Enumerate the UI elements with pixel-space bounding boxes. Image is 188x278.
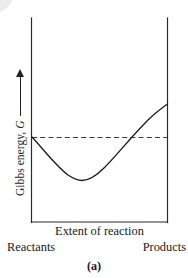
y-axis-symbol: G xyxy=(14,120,26,128)
y-axis-label-text: Gibbs energy, G xyxy=(14,120,26,196)
figure-caption: (a) xyxy=(0,259,188,274)
y-axis-label: Gibbs energy, G xyxy=(12,0,28,196)
gibbs-energy-curve xyxy=(32,104,168,181)
up-arrow-icon xyxy=(15,70,25,116)
reactants-label: Reactants xyxy=(7,240,55,255)
figure-container: Gibbs energy, G Extent of reaction React… xyxy=(0,0,188,278)
x-axis-label: Extent of reaction xyxy=(31,224,168,239)
products-label: Products xyxy=(143,240,186,255)
